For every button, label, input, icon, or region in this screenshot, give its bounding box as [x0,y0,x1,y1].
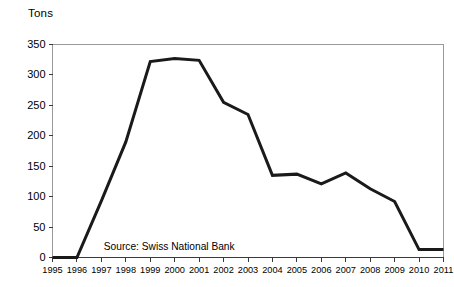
x-tick-label: 2010 [409,265,429,275]
x-tick-label: 1995 [42,265,62,275]
x-tick-label: 1996 [67,265,87,275]
y-tick-label: 150 [12,161,46,172]
x-tick-label: 2006 [311,265,331,275]
y-tick-label: 200 [12,130,46,141]
x-tick-label: 1997 [91,265,111,275]
y-tick-label: 300 [12,69,46,80]
y-tick-label: 0 [12,252,46,263]
source-annotation: Source: Swiss National Bank [104,241,235,253]
y-tick-label: 100 [12,191,46,202]
y-tick-label: 50 [12,222,46,233]
y-tick-label: 350 [12,39,46,50]
data-series-line [53,59,444,258]
x-tick-label: 2007 [336,265,356,275]
x-tick-label: 2005 [287,265,307,275]
x-tick-label: 2011 [434,265,454,275]
x-tick-label: 2003 [238,265,258,275]
x-tick-label: 1998 [116,265,136,275]
chart-container: Tons 350300250200150100500 1995199619971… [0,0,454,287]
x-tick-label: 2009 [384,265,404,275]
x-tick-label: 2001 [189,265,209,275]
x-tick-label: 2002 [213,265,233,275]
x-tick-label: 1999 [140,265,160,275]
y-tick-label: 250 [12,100,46,111]
x-tick-label: 2004 [262,265,282,275]
x-tick-label: 2000 [164,265,184,275]
x-tick-label: 2008 [360,265,380,275]
